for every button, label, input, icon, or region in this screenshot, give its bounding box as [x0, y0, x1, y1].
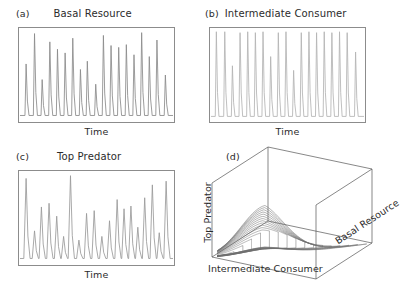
panel-d-xaxis-label: Intermediate Consumer [208, 263, 323, 274]
panel-c-header: (c) Top Predator [0, 151, 206, 162]
panel-c-plot-frame [18, 170, 175, 266]
panel-d-zaxis-label: Top Predator [202, 178, 213, 248]
panel-c-timeseries [19, 171, 174, 265]
panel-c-xaxis-label: Time [18, 269, 175, 280]
panel-a-timeseries [19, 28, 174, 122]
panel-b-intermediate-consumer: (b) Intermediate Consumer Time [190, 0, 381, 145]
panel-c-tag: (c) [16, 151, 29, 162]
panel-a-tag: (a) [16, 8, 30, 19]
panel-b-plot-frame [209, 27, 366, 123]
panel-d-phase-space: (d) Top Predator Intermediate Consumer B… [190, 145, 381, 288]
panel-a-plot-frame [18, 27, 175, 123]
panel-b-timeseries [210, 28, 365, 122]
panel-a-title: Basal Resource [54, 8, 132, 19]
panel-a-header: (a) Basal Resource [0, 8, 206, 19]
panel-b-tag: (b) [205, 8, 219, 19]
panel-b-xaxis-label: Time [209, 126, 366, 137]
panel-a-basal-resource: (a) Basal Resource Time [0, 0, 190, 145]
panel-a-xaxis-label: Time [18, 126, 175, 137]
panel-b-title: Intermediate Consumer [225, 8, 347, 19]
panel-c-top-predator: (c) Top Predator Time [0, 145, 190, 288]
panel-b-header: (b) Intermediate Consumer [190, 8, 396, 19]
panel-c-title: Top Predator [57, 151, 121, 162]
